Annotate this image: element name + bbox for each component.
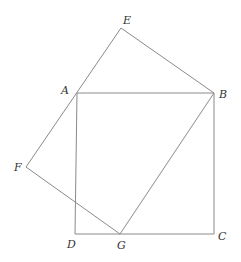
label-c: C <box>218 230 227 243</box>
label-d: D <box>66 238 76 251</box>
square-abcd <box>75 93 214 234</box>
label-g: G <box>117 239 126 252</box>
segment-bg <box>120 93 214 234</box>
segment-fe <box>26 28 121 167</box>
quad-ebgf <box>26 28 214 234</box>
segment-eb <box>121 28 214 93</box>
segment-ad <box>75 93 77 234</box>
label-b: B <box>218 88 227 101</box>
label-f: F <box>13 161 22 174</box>
geometry-diagram: E A B F D G C <box>0 0 241 262</box>
label-a: A <box>60 84 69 97</box>
segment-gf <box>26 167 120 234</box>
label-e: E <box>122 14 131 27</box>
